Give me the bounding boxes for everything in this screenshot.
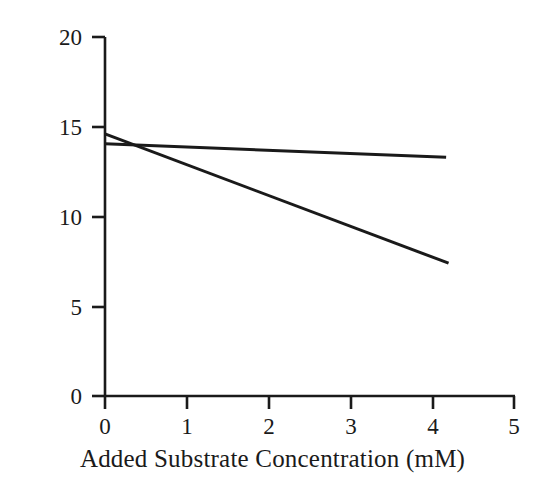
x-axis-title: Added Substrate Concentration (mM)	[0, 445, 545, 473]
y-tick-label-0: 0	[38, 385, 82, 408]
data-line-shallow	[105, 144, 446, 157]
x-tick-label-5: 5	[494, 415, 534, 438]
x-tick-label-1: 1	[167, 415, 207, 438]
x-tick-label-3: 3	[331, 415, 371, 438]
y-tick-label-15: 15	[38, 116, 82, 139]
x-tick-label-0: 0	[85, 415, 125, 438]
x-tick-label-2: 2	[249, 415, 289, 438]
x-tick-label-4: 4	[413, 415, 453, 438]
chart-figure: 20 15 10 5 0 0 1 2 3 4 5 Added Substrate…	[0, 0, 545, 491]
y-tick-label-10: 10	[38, 206, 82, 229]
data-line-steep	[105, 134, 449, 263]
y-tick-label-5: 5	[38, 296, 82, 319]
y-tick-label-20: 20	[38, 26, 82, 49]
